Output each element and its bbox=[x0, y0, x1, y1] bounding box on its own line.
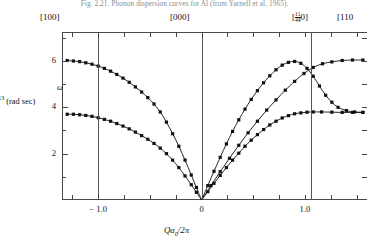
x-tick-top-1 bbox=[202, 32, 203, 37]
data-point-4-4 bbox=[237, 144, 240, 147]
y-tick-right-6 bbox=[362, 38, 367, 39]
data-point-1-4 bbox=[90, 115, 93, 118]
data-point-2-16 bbox=[299, 62, 302, 65]
data-point-0-7 bbox=[109, 70, 112, 73]
data-point-3-3 bbox=[219, 174, 222, 177]
y-tick-right-4 bbox=[362, 130, 367, 131]
x-tick-top-9 bbox=[279, 32, 280, 37]
data-point-2-23 bbox=[345, 109, 348, 112]
data-point-3-19 bbox=[320, 110, 323, 113]
data-point-1-18 bbox=[177, 166, 180, 169]
data-point-0-10 bbox=[128, 81, 131, 84]
data-point-2-13 bbox=[281, 64, 284, 67]
data-point-1-15 bbox=[159, 146, 162, 149]
y-tick-left-2 bbox=[62, 61, 68, 62]
zone-boundary-line-1 bbox=[202, 32, 203, 200]
x-tick-bottom-3 bbox=[72, 195, 73, 200]
data-point-3-16 bbox=[299, 111, 302, 114]
data-point-2-14 bbox=[287, 61, 290, 64]
data-point-4-11 bbox=[302, 72, 305, 75]
data-point-4-7 bbox=[265, 108, 268, 111]
data-point-1-20 bbox=[190, 183, 193, 186]
data-point-1-13 bbox=[146, 138, 149, 141]
data-point-1-21 bbox=[195, 191, 198, 194]
data-point-3-22 bbox=[351, 111, 354, 114]
x-tick-top-3 bbox=[72, 32, 73, 37]
y-tick-left-1 bbox=[62, 107, 68, 108]
data-point-0-16 bbox=[165, 121, 168, 124]
data-point-4-2 bbox=[219, 170, 222, 173]
data-point-2-5 bbox=[231, 130, 234, 133]
data-point-3-20 bbox=[330, 111, 333, 114]
data-point-2-9 bbox=[256, 89, 259, 92]
x-tick-top-5 bbox=[150, 32, 151, 37]
data-point-2-10 bbox=[262, 81, 265, 84]
data-point-4-10 bbox=[293, 80, 296, 83]
data-point-1-1 bbox=[72, 113, 75, 116]
data-point-1-3 bbox=[84, 114, 87, 117]
data-point-0-20 bbox=[190, 173, 193, 176]
data-point-0-9 bbox=[121, 77, 124, 80]
data-point-1-8 bbox=[115, 122, 118, 125]
data-point-2-19 bbox=[318, 84, 321, 87]
curve--100-la bbox=[67, 61, 201, 201]
x-tick-top-11 bbox=[357, 32, 358, 37]
data-point-2-7 bbox=[243, 108, 246, 111]
data-point-4-14 bbox=[330, 60, 333, 63]
data-point-3-7 bbox=[243, 145, 246, 148]
y-tick-right-5 bbox=[362, 84, 367, 85]
data-point-3-5 bbox=[231, 159, 234, 162]
zone-boundary-line-2 bbox=[311, 32, 312, 200]
data-point-4-8 bbox=[274, 98, 277, 101]
x-tick-top-0 bbox=[98, 32, 99, 37]
x-tick-bottom-5 bbox=[150, 195, 151, 200]
data-point-4-3 bbox=[228, 157, 231, 160]
data-point-2-3 bbox=[219, 156, 222, 159]
data-point-3-17 bbox=[305, 111, 308, 114]
data-point-2-17 bbox=[305, 67, 308, 70]
data-point-3-12 bbox=[274, 120, 277, 123]
curve--110-la bbox=[202, 61, 363, 200]
y-tick-right-3 bbox=[362, 177, 367, 178]
y-tick-left-0 bbox=[62, 154, 68, 155]
data-point-1-10 bbox=[128, 127, 131, 130]
data-point-0-8 bbox=[115, 73, 118, 76]
data-point-2-20 bbox=[324, 94, 327, 97]
data-point-2-1 bbox=[206, 184, 209, 187]
data-point-2-6 bbox=[237, 118, 240, 121]
x-tick-bottom-0 bbox=[98, 195, 99, 200]
data-point-0-6 bbox=[103, 67, 106, 70]
curve--110-ta1 bbox=[202, 112, 363, 200]
y-tick-left-3 bbox=[62, 177, 66, 178]
x-tick-bottom-8 bbox=[253, 195, 254, 200]
y-tick-right-2 bbox=[362, 61, 367, 62]
data-point-2-21 bbox=[330, 101, 333, 104]
data-point-2-4 bbox=[225, 142, 228, 145]
y-tick-left-6 bbox=[62, 38, 66, 39]
x-tick-bottom-6 bbox=[176, 195, 177, 200]
x-tick-top-4 bbox=[124, 32, 125, 37]
x-tick-top-8 bbox=[253, 32, 254, 37]
data-point-1-7 bbox=[109, 120, 112, 123]
x-tick-top-7 bbox=[227, 32, 228, 37]
data-point-0-3 bbox=[84, 61, 87, 64]
x-tick-bottom-11 bbox=[357, 195, 358, 200]
data-point-4-1 bbox=[209, 184, 212, 187]
x-tick-bottom-2 bbox=[305, 195, 306, 200]
data-point-3-23 bbox=[361, 111, 364, 114]
x-tick-top-10 bbox=[331, 32, 332, 37]
data-point-0-13 bbox=[146, 96, 149, 99]
x-tick-bottom-7 bbox=[227, 195, 228, 200]
data-point-1-11 bbox=[134, 131, 137, 134]
x-tick-bottom-10 bbox=[331, 195, 332, 200]
data-point-4-16 bbox=[351, 58, 354, 61]
data-point-4-15 bbox=[341, 59, 344, 62]
data-point-3-8 bbox=[250, 139, 253, 142]
data-point-2-2 bbox=[212, 170, 215, 173]
data-point-2-15 bbox=[293, 60, 296, 63]
x-tick-label-0: − 1.0 bbox=[78, 204, 118, 214]
x-tick-bottom-4 bbox=[124, 195, 125, 200]
data-point-2-12 bbox=[274, 68, 277, 71]
data-point-3-9 bbox=[256, 133, 259, 136]
y-tick-label-6: 6 bbox=[42, 55, 56, 65]
